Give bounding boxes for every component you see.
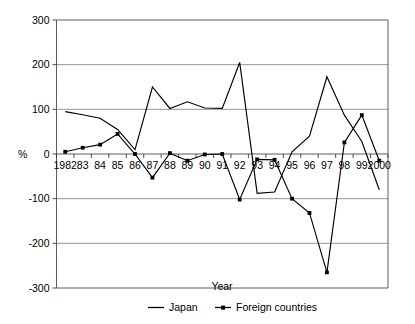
data-point-marker <box>98 143 102 147</box>
y-axis-tick-labels: 3002001000-100-200-300 <box>28 14 49 294</box>
chart-canvas: 3002001000-100-200-300 19828384858687888… <box>0 0 415 324</box>
legend-label: Japan <box>169 301 198 313</box>
data-point-marker <box>220 152 224 156</box>
y-axis-tickmarks <box>53 20 57 288</box>
y-tick-label: -200 <box>28 237 49 249</box>
data-series <box>65 62 379 193</box>
y-tick-label: 0 <box>44 148 50 160</box>
x-tick-label: 84 <box>94 159 106 171</box>
y-tick-label: 200 <box>32 58 50 70</box>
data-point-marker <box>63 150 67 154</box>
x-tick-label: 85 <box>112 159 124 171</box>
data-point-marker <box>133 152 137 156</box>
x-tick-label: 86 <box>129 159 141 171</box>
data-point-marker <box>116 132 120 136</box>
series-line <box>65 62 379 193</box>
legend-label: Foreign countries <box>236 301 317 313</box>
data-point-marker <box>377 159 381 163</box>
x-axis-title: Year <box>211 280 233 292</box>
data-point-marker <box>238 198 242 202</box>
y-axis-title: % <box>18 148 27 160</box>
x-tick-label: 88 <box>164 159 176 171</box>
y-tick-label: -300 <box>28 282 49 294</box>
y-tick-label: -100 <box>28 192 49 204</box>
x-tick-label: 83 <box>77 159 89 171</box>
y-tick-label: 100 <box>32 103 50 115</box>
data-point-marker <box>81 146 85 150</box>
x-tick-label: 90 <box>199 159 211 171</box>
data-point-marker <box>151 176 155 180</box>
legend-swatch-marker <box>221 306 225 310</box>
data-point-marker <box>273 158 277 162</box>
data-point-marker <box>325 270 329 274</box>
data-series <box>63 113 381 274</box>
line-chart: 3002001000-100-200-300 19828384858687888… <box>0 0 415 324</box>
data-point-marker <box>185 159 189 163</box>
chart-legend: JapanForeign countries <box>148 301 317 313</box>
x-tick-label: 99 <box>356 159 368 171</box>
data-point-marker <box>342 140 346 144</box>
x-tick-label: 96 <box>304 159 316 171</box>
data-point-marker <box>360 113 364 117</box>
y-tick-label: 300 <box>32 14 50 26</box>
data-point-marker <box>255 157 259 161</box>
series-line <box>65 115 379 272</box>
data-point-marker <box>290 197 294 201</box>
x-tick-label: 1982 <box>54 159 78 171</box>
x-tick-label: 97 <box>321 159 333 171</box>
x-tick-label: 92 <box>234 159 246 171</box>
data-point-marker <box>308 211 312 215</box>
data-point-marker <box>168 151 172 155</box>
data-point-marker <box>203 153 207 157</box>
x-tick-label: 87 <box>147 159 159 171</box>
